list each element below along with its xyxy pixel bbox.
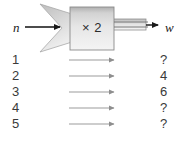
table-row: 4 ?: [0, 100, 187, 116]
table-row: 2 4: [0, 68, 187, 84]
machine-diagram: n w × 2: [0, 0, 187, 54]
table-cell-input: 4: [12, 100, 28, 116]
table-row: 5 ?: [0, 116, 187, 132]
table-cell-input: 2: [12, 68, 28, 84]
table-cell-input: 3: [12, 84, 28, 100]
value-table: 1 ? 2: [0, 52, 187, 142]
input-variable-label: n: [13, 21, 20, 34]
table-row: 3 6: [0, 84, 187, 100]
table-row: 1 ?: [0, 52, 187, 68]
machine-operation-label: × 2: [70, 20, 114, 35]
row-arrow-icon: [68, 52, 120, 68]
machine-intake-funnel: [40, 4, 72, 52]
table-cell-output: ?: [160, 52, 176, 68]
output-variable-label: w: [165, 21, 174, 34]
function-machine-figure: n w × 2 1 ? 2: [0, 0, 187, 142]
machine-outlet-spout: [112, 19, 146, 30]
row-arrow-icon: [68, 68, 120, 84]
row-arrow-icon: [68, 116, 120, 132]
row-arrow-icon: [68, 84, 120, 100]
table-cell-output: 6: [160, 84, 176, 100]
table-cell-input: 1: [12, 52, 28, 68]
table-cell-output: ?: [160, 116, 176, 132]
table-cell-output: ?: [160, 100, 176, 116]
table-cell-output: 4: [160, 68, 176, 84]
table-cell-input: 5: [12, 116, 28, 132]
row-arrow-icon: [68, 100, 120, 116]
